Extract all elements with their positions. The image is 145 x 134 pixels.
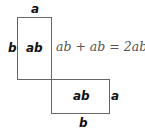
- bottom-rect-bottom-label: b: [79, 117, 88, 129]
- bottom-rect-right-label: a: [111, 90, 119, 102]
- top-rect-top-label: a: [31, 3, 39, 15]
- top-rect-left-label: b: [8, 42, 17, 54]
- equation: ab + ab = 2ab: [56, 41, 145, 54]
- top-rect-area-label: ab: [26, 42, 43, 54]
- bottom-rect-area-label: ab: [73, 90, 90, 102]
